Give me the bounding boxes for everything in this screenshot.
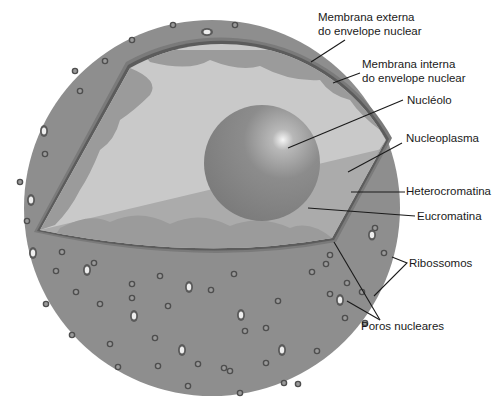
- label-ribosomes: Ribossomos: [409, 256, 472, 270]
- nucleolus: [204, 105, 320, 221]
- label-heterochromatin: Heterocromatina: [406, 184, 491, 198]
- label-inner-membrane-line2: do envelope nuclear: [362, 71, 466, 85]
- label-inner-membrane-line1: Membrana interna: [362, 57, 466, 71]
- label-outer-membrane: Membrana externa do envelope nuclear: [318, 10, 422, 38]
- label-outer-membrane-line1: Membrana externa: [318, 10, 422, 24]
- label-nucleolus: Nucléolo: [407, 93, 452, 107]
- label-nuclear-pores: Poros nucleares: [361, 319, 444, 333]
- label-inner-membrane: Membrana interna do envelope nuclear: [362, 57, 466, 85]
- label-outer-membrane-line2: do envelope nuclear: [318, 24, 422, 38]
- label-euchromatin: Eucromatina: [417, 209, 482, 223]
- label-nucleoplasm: Nucleoplasma: [406, 131, 479, 145]
